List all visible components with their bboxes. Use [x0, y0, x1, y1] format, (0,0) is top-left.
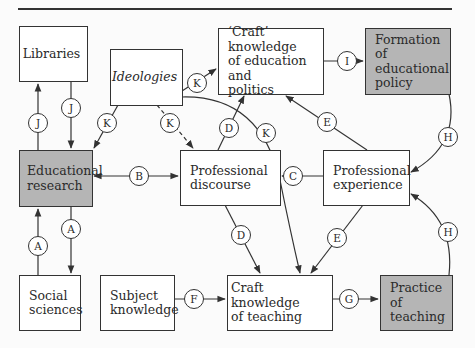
box-libraries: Libraries [19, 26, 88, 82]
box-craft-knowledge-teaching: Craft knowledge of teaching [227, 275, 333, 331]
node-a-up: A [28, 236, 48, 256]
node-j-down: J [61, 98, 81, 118]
node-b: B [129, 166, 149, 186]
node-e-up: E [317, 112, 337, 132]
box-educational-research: Educational research [19, 150, 93, 207]
box-ideologies: Ideologies [110, 49, 183, 106]
node-k-research: K [97, 113, 117, 133]
node-f: F [184, 289, 204, 309]
box-craft-knowledge-politics: ‘Craft’ knowledge of education and polit… [218, 28, 324, 95]
box-subject-knowledge: Subject knowledge [100, 275, 175, 331]
node-k-craft-teaching: K [256, 123, 276, 143]
node-d-up: D [219, 118, 239, 138]
node-g: G [339, 289, 359, 309]
node-k-discourse: K [160, 113, 180, 133]
node-e-down: E [327, 228, 347, 248]
box-professional-experience: Professional experience [323, 150, 410, 206]
node-h-down: H [438, 127, 458, 147]
box-practice-of-teaching: Practice of teaching [380, 275, 453, 331]
node-i: I [337, 51, 357, 71]
node-a-down: A [61, 219, 81, 239]
node-c: C [283, 166, 303, 186]
node-d-down: D [231, 225, 251, 245]
box-social-sciences: Social sciences [19, 275, 81, 331]
box-formation-of-policy: Formation of educational policy [365, 28, 451, 95]
node-k-craft-politics: K [187, 73, 207, 93]
box-professional-discourse: Professional discourse [180, 150, 281, 206]
node-j-up: J [28, 113, 48, 133]
node-h-up: H [438, 222, 458, 242]
